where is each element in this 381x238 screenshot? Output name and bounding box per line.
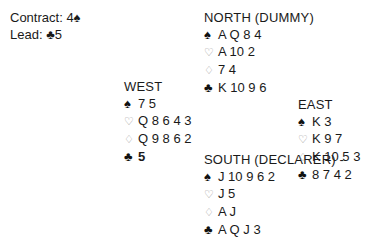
north-diamonds: ♢7 4 bbox=[204, 61, 314, 79]
south-spades: ♠J 10 9 6 2 bbox=[204, 168, 344, 185]
south-diamonds: ♢A J bbox=[204, 203, 344, 221]
spade-icon: ♠ bbox=[124, 95, 138, 112]
lead-label: Lead: bbox=[10, 27, 43, 42]
heart-icon: ♡ bbox=[124, 113, 138, 130]
south-clubs: ♣A Q J 3 bbox=[204, 221, 344, 238]
diamond-icon: ♢ bbox=[204, 62, 218, 79]
diamond-icon: ♢ bbox=[124, 131, 138, 148]
contract-value: 4 bbox=[66, 10, 73, 25]
heart-icon: ♡ bbox=[298, 131, 312, 148]
west-lead-card: 5 bbox=[138, 149, 145, 164]
west-clubs: ♣5 bbox=[124, 148, 191, 165]
north-spades: ♠A Q 8 4 bbox=[204, 26, 314, 43]
spade-icon: ♠ bbox=[204, 26, 218, 43]
south-hearts: ♡J 5 bbox=[204, 185, 344, 203]
lead-line: Lead: ♣5 bbox=[10, 26, 81, 43]
contract-label: Contract: bbox=[10, 10, 63, 25]
south-hand: SOUTH (DECLARER) - ♠J 10 9 6 2 ♡J 5 ♢A J… bbox=[204, 151, 344, 238]
west-spades: ♠7 5 bbox=[124, 95, 191, 112]
spade-icon: ♠ bbox=[204, 168, 218, 185]
west-title: WEST bbox=[124, 78, 191, 95]
east-spades: ♠K 3 bbox=[298, 113, 360, 130]
east-title: EAST bbox=[298, 96, 360, 113]
north-hand: NORTH (DUMMY) ♠A Q 8 4 ♡A 10 2 ♢7 4 ♣K 1… bbox=[204, 9, 314, 96]
spade-icon: ♠ bbox=[74, 10, 81, 25]
south-title: SOUTH (DECLARER) - bbox=[204, 151, 344, 168]
contract-line: Contract: 4♠ bbox=[10, 9, 81, 26]
heart-icon: ♡ bbox=[204, 44, 218, 61]
diamond-icon: ♢ bbox=[204, 204, 218, 221]
club-icon: ♣ bbox=[204, 221, 218, 238]
north-clubs: ♣K 10 9 6 bbox=[204, 79, 314, 96]
contract-info: Contract: 4♠ Lead: ♣5 bbox=[10, 9, 81, 43]
west-diamonds: ♢Q 9 8 6 2 bbox=[124, 130, 191, 148]
west-hand: WEST ♠7 5 ♡Q 8 6 4 3 ♢Q 9 8 6 2 ♣5 bbox=[124, 78, 191, 165]
club-icon: ♣ bbox=[46, 27, 55, 42]
heart-icon: ♡ bbox=[204, 186, 218, 203]
club-icon: ♣ bbox=[124, 148, 138, 165]
east-hearts: ♡K 9 7 bbox=[298, 130, 360, 148]
lead-value: 5 bbox=[55, 27, 62, 42]
club-icon: ♣ bbox=[204, 79, 218, 96]
north-title: NORTH (DUMMY) bbox=[204, 9, 314, 26]
west-hearts: ♡Q 8 6 4 3 bbox=[124, 112, 191, 130]
spade-icon: ♠ bbox=[298, 113, 312, 130]
north-hearts: ♡A 10 2 bbox=[204, 43, 314, 61]
